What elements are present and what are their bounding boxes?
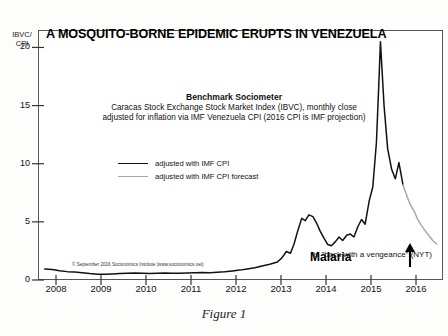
x-tick-label: 2009 (78, 283, 124, 294)
x-tick-label: 2016 (393, 283, 439, 294)
x-tick-label: 2013 (258, 283, 304, 294)
x-tick-label: 2008 (33, 283, 79, 294)
y-tick-label: 5 (4, 216, 30, 226)
y-tick-label: 20 (4, 41, 30, 51)
x-tick-label: 2012 (213, 283, 259, 294)
figure-caption: Figure 1 (0, 306, 448, 322)
y-tick-label: 0 (4, 274, 30, 284)
figure-container: IBVC/ CPI A MOSQUITO-BORNE EPIDEMIC ERUP… (0, 0, 448, 336)
y-tick-label: 10 (4, 158, 30, 168)
y-tick-label: 15 (4, 100, 30, 110)
x-tick-label: 2014 (303, 283, 349, 294)
x-tick-label: 2011 (168, 283, 214, 294)
x-tick-label: 2010 (123, 283, 169, 294)
x-tick-label: 2015 (348, 283, 394, 294)
